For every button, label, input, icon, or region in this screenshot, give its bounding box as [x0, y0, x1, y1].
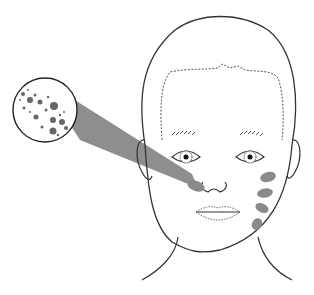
nose	[202, 182, 227, 192]
right-ear	[287, 140, 300, 178]
left-eye	[172, 151, 200, 163]
face-diagram	[0, 0, 314, 295]
hairline	[161, 64, 283, 140]
cheek-lesions	[186, 170, 277, 232]
eyebrows	[172, 131, 263, 136]
right-eye	[236, 151, 264, 163]
magnified-lesion-inset	[13, 78, 77, 142]
neck-left	[142, 237, 178, 280]
mouth	[196, 207, 240, 220]
neck-right	[258, 237, 292, 280]
head-outline	[142, 17, 296, 252]
